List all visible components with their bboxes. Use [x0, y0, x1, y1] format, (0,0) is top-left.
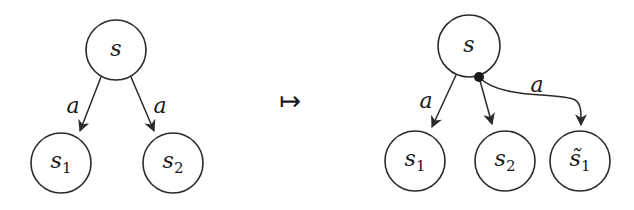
right-node-s1-tilde: s̃1 [550, 131, 610, 191]
right-s2-label: s [495, 146, 506, 171]
left-s1-label: s [51, 148, 62, 173]
left-root-label: s [110, 36, 121, 61]
right-edge-s2 [479, 77, 492, 124]
left-edge-label-1: a [66, 93, 79, 118]
right-edge-label-3: a [530, 72, 543, 97]
right-edge-label-1: a [419, 88, 432, 113]
right-node-s1: s1 [385, 131, 445, 191]
right-s2-subscript: 2 [506, 157, 516, 175]
right-s1-label: s [405, 146, 416, 171]
left-edge-s2 [131, 77, 154, 131]
left-node-s2: s2 [143, 133, 203, 193]
right-s1-subscript: 1 [416, 157, 426, 175]
left-s2-subscript: 2 [174, 159, 184, 177]
right-root-node: s [438, 15, 500, 77]
left-s1-subscript: 1 [62, 159, 72, 177]
branch-point-dot [474, 72, 484, 82]
right-diagram: s a a s1 s2 s̃1 [385, 15, 610, 191]
left-node-s1: s1 [31, 133, 91, 193]
right-root-label: s [463, 32, 474, 57]
left-edge-s1 [80, 77, 101, 131]
left-s2-label: s [163, 148, 174, 173]
right-node-s2: s2 [475, 131, 535, 191]
transformation-diagram: s a a s1 s2 ↦ s a a [0, 0, 634, 210]
right-s1-tilde-subscript: 1 [581, 157, 591, 175]
left-diagram: s a a s1 s2 [31, 20, 203, 193]
right-edge-s1 [432, 75, 456, 127]
left-edge-label-2: a [153, 93, 166, 118]
mapsto-arrow: ↦ [279, 86, 301, 116]
left-root-node: s [86, 20, 146, 80]
